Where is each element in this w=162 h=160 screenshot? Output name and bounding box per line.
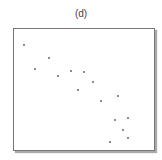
data-point <box>23 44 25 46</box>
data-point <box>92 81 94 83</box>
data-point <box>34 68 36 70</box>
data-point <box>77 89 79 91</box>
data-point <box>122 129 124 131</box>
data-point <box>117 95 119 97</box>
data-point <box>114 119 116 121</box>
chart-title: (d) <box>0 8 162 19</box>
data-point <box>83 71 85 73</box>
data-point <box>109 141 111 143</box>
data-point <box>70 70 72 72</box>
data-point <box>127 117 129 119</box>
data-point <box>48 57 50 59</box>
data-point <box>57 75 59 77</box>
plot-area <box>13 28 155 151</box>
data-point <box>127 137 129 139</box>
data-point <box>100 100 102 102</box>
